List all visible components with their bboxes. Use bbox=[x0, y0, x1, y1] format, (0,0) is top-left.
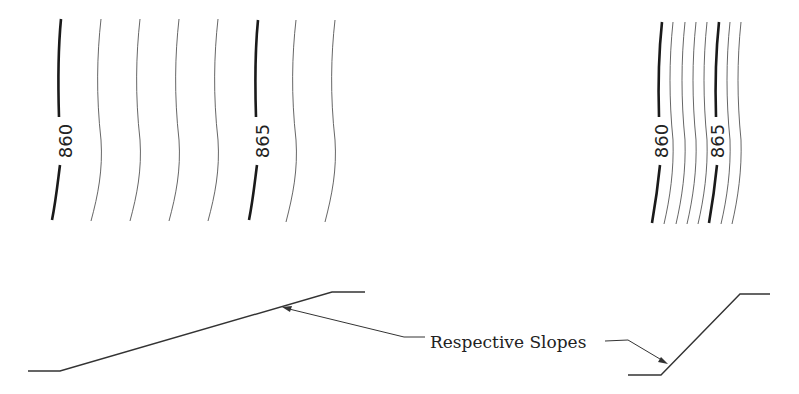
contour-label-860-right: 860 bbox=[651, 124, 672, 158]
contour-865-left bbox=[249, 20, 258, 220]
gentle-slope-profile bbox=[28, 292, 365, 371]
contour-label-865-right: 865 bbox=[707, 124, 728, 158]
respective-slopes-label: Respective Slopes bbox=[430, 332, 586, 352]
steep-slope-profile bbox=[628, 294, 770, 375]
arrowhead-icon bbox=[282, 306, 292, 312]
contour-860-left bbox=[52, 19, 61, 220]
contour-label-860-left: 860 bbox=[55, 124, 76, 158]
contour-slope-diagram: 860 865 860 865 Respective Slopes bbox=[0, 0, 799, 394]
right-contour-group: 860 865 bbox=[651, 22, 741, 224]
contour-865-right bbox=[709, 22, 719, 223]
arrowhead-icon bbox=[658, 357, 668, 364]
left-contour-group: 860 865 bbox=[52, 19, 335, 222]
contour-label-865-left: 865 bbox=[252, 124, 273, 158]
contour-860-right bbox=[652, 22, 662, 223]
